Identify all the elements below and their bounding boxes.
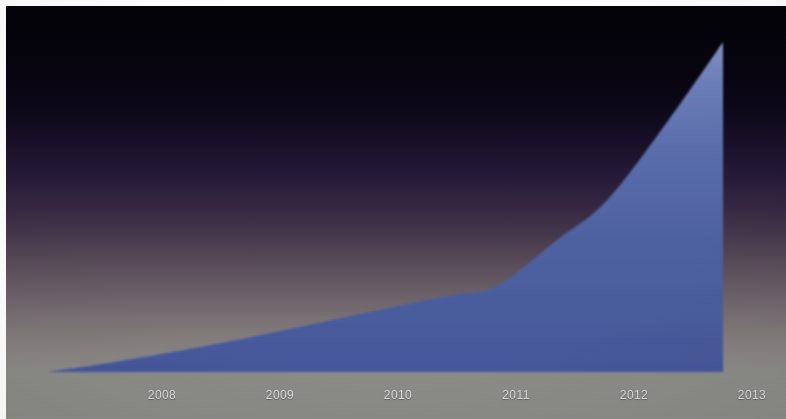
chart-slide: 2008 2009 2010 2011 2012 2013	[6, 6, 786, 419]
area-chart-figure: 2008 2009 2010 2011 2012 2013	[0, 0, 786, 419]
area-series-path	[48, 42, 723, 372]
series-area-svg	[6, 6, 786, 419]
